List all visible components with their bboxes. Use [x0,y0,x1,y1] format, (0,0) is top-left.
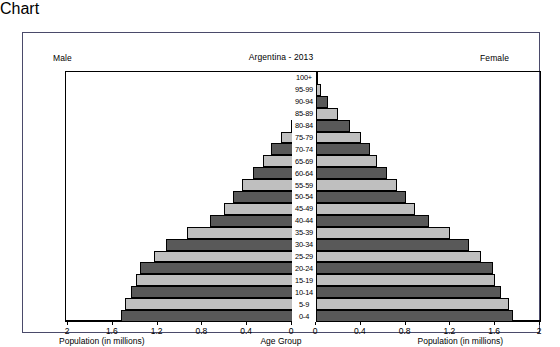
female-bar [316,298,509,310]
left-tick-label: 0 [289,326,294,336]
female-bar [316,120,350,132]
age-group-label: 5-9 [292,298,316,310]
female-bar [316,143,370,155]
age-group-label: 100+ [292,72,316,84]
left-tick-label: 2 [65,326,70,336]
age-group-label: 55-59 [292,179,316,191]
right-tick-label: 0.4 [354,326,366,336]
age-group-label: 40-44 [292,215,316,227]
axis-tick [405,321,406,325]
pyramid-row: 30-34 [66,239,540,251]
female-caption: Female [480,53,509,63]
right-tick-label: 1.6 [488,326,500,336]
age-group-label: 10-14 [292,286,316,298]
pyramid-row: 60-64 [66,167,540,179]
female-bar [316,132,361,144]
age-group-label: 65-69 [292,155,316,167]
age-group-label: 75-79 [292,132,316,144]
pyramid-row: 90-94 [66,96,540,108]
female-bar [316,155,377,167]
female-bar [316,262,493,274]
axis-tick [67,321,68,325]
age-group-label: 45-49 [292,203,316,215]
axis-tick [246,321,247,325]
age-group-label: 70-74 [292,143,316,155]
pyramid-row: 85-89 [66,108,540,120]
pyramid-row: 80-84 [66,120,540,132]
left-tick-label: 1.6 [106,326,118,336]
left-tick-label: 0.4 [240,326,252,336]
right-axis-label: Population (in millions) [417,336,503,346]
pyramid-row: 25-29 [66,251,540,263]
age-group-label: 60-64 [292,167,316,179]
age-group-label: 25-29 [292,251,316,263]
age-group-label: 85-89 [292,108,316,120]
pyramid-row: 10-14 [66,286,540,298]
female-bar [316,203,415,215]
pyramid-row: 75-79 [66,132,540,144]
pyramid-row: 55-59 [66,179,540,191]
pyramid-row: 70-74 [66,143,540,155]
pyramid-row: 15-19 [66,274,540,286]
pyramid-row: 40-44 [66,215,540,227]
pyramid-row: 100+ [66,72,540,84]
female-bar [316,179,397,191]
pyramid-plot-area: 100+95-9990-9485-8980-8475-7970-7465-696… [65,71,541,321]
pyramid-row: 95-99 [66,84,540,96]
female-bar [316,227,450,239]
age-group-label: 80-84 [292,120,316,132]
right-tick-label: 0.8 [399,326,411,336]
age-group-label: 0-4 [292,310,316,322]
pyramid-row: 5-9 [66,298,540,310]
male-bar [140,262,314,274]
left-tick-label: 1.2 [151,326,163,336]
female-zero-axis [316,72,317,320]
female-bar [316,108,338,120]
female-bar [316,96,328,108]
male-bar [136,274,314,286]
age-group-label: 30-34 [292,239,316,251]
right-tick-label: 2 [537,326,542,336]
pyramid-row: 65-69 [66,155,540,167]
chart-screenshot: Male Argentina - 2013 Female 100+95-9990… [0,18,560,347]
female-bar [316,167,387,179]
female-bar [316,286,501,298]
female-bar [316,274,495,286]
axis-tick [449,321,450,325]
pyramid-row: 35-39 [66,227,540,239]
axis-tick [360,321,361,325]
bar-rows: 100+95-9990-9485-8980-8475-7970-7465-696… [66,72,540,320]
age-group-label: 15-19 [292,274,316,286]
age-group-label: 50-54 [292,191,316,203]
age-group-label: 20-24 [292,262,316,274]
left-tick-label: 0.8 [195,326,207,336]
axis-tick [494,321,495,325]
female-bar [316,215,429,227]
right-tick-label: 0 [313,326,318,336]
male-bar [131,286,314,298]
chart-title: Argentina - 2013 [23,52,539,62]
male-bar [154,251,314,263]
axis-tick [157,321,158,325]
male-bar [125,298,314,310]
chart-outer-frame: Male Argentina - 2013 Female 100+95-9990… [22,32,540,333]
female-bar [316,251,481,263]
age-group-label: 90-94 [292,96,316,108]
pyramid-row: 20-24 [66,262,540,274]
right-tick-label: 1.2 [443,326,455,336]
age-group-label: 95-99 [292,84,316,96]
axis-tick [112,321,113,325]
female-bar [316,239,469,251]
female-bar [316,191,406,203]
age-group-label: 35-39 [292,227,316,239]
pyramid-row: 50-54 [66,191,540,203]
pyramid-row: 45-49 [66,203,540,215]
axis-tick [201,321,202,325]
axis-tick [539,321,540,325]
